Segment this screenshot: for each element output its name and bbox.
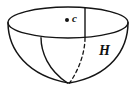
center-dot-icon bbox=[65, 18, 69, 22]
hemisphere-figure: c H bbox=[0, 0, 136, 98]
rim-front-arc bbox=[8, 23, 128, 39]
height-label: H bbox=[99, 44, 110, 58]
center-point-label: c bbox=[72, 13, 77, 24]
hemisphere-drawing bbox=[0, 0, 136, 98]
bowl-outer-profile bbox=[8, 23, 128, 84]
hidden-edge-dashed bbox=[70, 38, 86, 83]
